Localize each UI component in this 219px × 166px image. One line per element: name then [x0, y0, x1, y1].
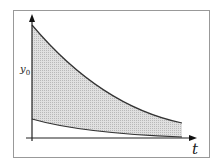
t-axis-label: t	[192, 140, 198, 158]
y0-label: y0	[20, 63, 30, 77]
y-label-subscript: 0	[26, 69, 30, 77]
y-axis-arrow-icon	[29, 14, 35, 22]
shaded-region	[32, 25, 182, 137]
diagram-canvas	[0, 0, 219, 166]
